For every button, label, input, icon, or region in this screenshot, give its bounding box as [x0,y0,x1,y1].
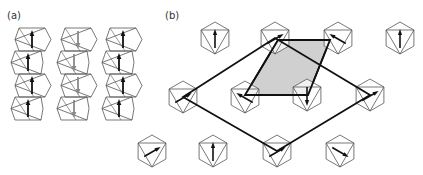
panel-a-chains [11,28,142,120]
octahedron-hexagon [201,22,229,54]
octahedral-chain [102,28,142,120]
octahedron-hexagon [326,135,354,167]
lattice-diagram [0,0,423,175]
octahedron-hexagon [138,135,166,167]
octahedron-hexagon [324,22,352,54]
octahedral-chain [57,28,97,120]
octahedral-chain [11,28,51,120]
octahedron-hexagon [199,135,227,167]
octahedron-hexagon [386,22,414,54]
